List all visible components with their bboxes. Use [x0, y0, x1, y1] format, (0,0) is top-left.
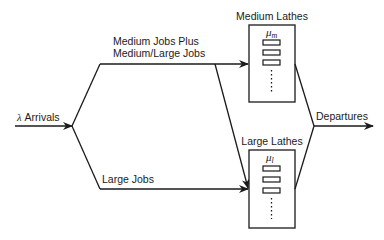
medium-output-line: [295, 64, 314, 126]
upper-branch-label-line1: Medium Jobs Plus: [113, 35, 199, 47]
queueing-diagram: λArrivals Medium Jobs Plus Medium/Large …: [0, 0, 384, 240]
lower-branch-label: Large Jobs: [102, 173, 154, 185]
departures-label: Departures: [316, 110, 368, 122]
station-title: Medium Lathes: [236, 10, 308, 22]
station-medium-lathes: Medium Lathes μm: [236, 10, 308, 102]
station-title: Large Lathes: [241, 135, 302, 147]
upper-branch-diagonal: [72, 64, 100, 126]
arrivals-label: λArrivals: [16, 111, 60, 123]
station-large-lathes: Large Lathes μl: [241, 135, 302, 228]
upper-branch-label-line2: Medium/Large Jobs: [113, 47, 205, 59]
overflow-arrow: [215, 64, 248, 188]
lower-branch-diagonal: [72, 126, 100, 189]
